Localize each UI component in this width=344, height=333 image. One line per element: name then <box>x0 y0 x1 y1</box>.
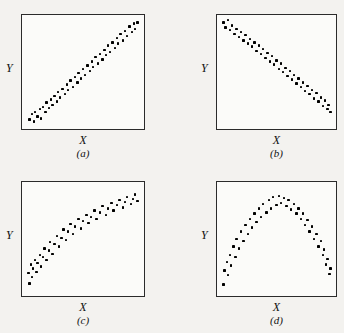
scatter-dot <box>111 41 113 43</box>
scatter-dot <box>253 41 255 43</box>
scatter-dot <box>99 53 101 55</box>
scatter-dot <box>273 63 275 65</box>
scatter-dot <box>275 204 277 206</box>
scatter-dot <box>60 237 62 239</box>
panel-a-y-axis-label: Y <box>6 62 13 74</box>
scatter-dot <box>84 74 86 76</box>
scatter-dot <box>74 76 76 78</box>
scatterplot-figure: Y X (a) Y X (b) Y X (c) Y X (d) <box>0 0 344 333</box>
scatter-dot <box>293 74 295 76</box>
panel-d-plot-box <box>216 181 337 297</box>
scatter-dot <box>258 44 260 46</box>
scatter-dot <box>36 262 38 264</box>
scatter-dot <box>124 201 126 203</box>
scatter-dot <box>302 212 304 214</box>
scatter-dot <box>130 203 132 205</box>
panel-b-x-axis-label: X <box>216 134 337 146</box>
scatter-dot <box>112 209 114 211</box>
scatter-dot <box>233 33 235 35</box>
panel-b-caption: (b) <box>216 148 337 159</box>
panel-b-y-axis-label: Y <box>201 62 208 74</box>
scatter-dot <box>265 211 267 213</box>
scatter-dot <box>45 259 47 261</box>
scatter-dot <box>31 276 33 278</box>
scatter-dot <box>85 214 87 216</box>
scatter-dot <box>253 212 255 214</box>
scatter-dot <box>134 193 136 195</box>
scatter-dot <box>315 233 317 235</box>
panel-b-plot-box <box>216 14 337 130</box>
panel-a: Y X (a) <box>0 0 172 166</box>
scatter-dot <box>240 230 242 232</box>
scatter-dot <box>136 21 138 23</box>
panel-a-plot-box <box>21 14 145 130</box>
panel-c-plot-box <box>21 181 145 297</box>
scatter-dot <box>31 113 33 115</box>
scatter-dot <box>329 111 331 113</box>
scatter-dot <box>270 207 272 209</box>
scatter-dot <box>300 86 302 88</box>
scatter-dot <box>290 208 292 210</box>
scatter-dot <box>132 198 134 200</box>
scatter-dot <box>122 39 124 41</box>
scatter-dot <box>302 81 304 83</box>
scatter-dot <box>82 220 84 222</box>
scatter-dot <box>117 42 119 44</box>
scatter-dot <box>322 105 324 107</box>
scatter-dot <box>262 48 264 50</box>
scatter-dot <box>93 209 95 211</box>
scatter-dot <box>320 96 322 98</box>
scatter-dot <box>280 202 282 204</box>
scatter-dot <box>260 53 262 55</box>
scatter-dot <box>95 218 97 220</box>
scatter-dot <box>255 50 257 52</box>
scatter-dot <box>297 77 299 79</box>
scatter-dot <box>315 92 317 94</box>
scatter-dot <box>99 211 101 213</box>
scatter-dot <box>287 199 289 201</box>
scatter-dot <box>56 100 58 102</box>
scatter-dot <box>101 205 103 207</box>
scatter-dot <box>77 72 79 74</box>
scatter-dot <box>116 204 118 206</box>
scatter-dot <box>282 71 284 73</box>
scatter-dot <box>74 225 76 227</box>
scatter-dot <box>264 57 266 59</box>
scatter-dot <box>82 68 84 70</box>
scatter-dot <box>105 54 107 56</box>
panel-a-x-axis-label: X <box>21 134 145 146</box>
scatter-dot <box>232 245 234 247</box>
scatter-dot <box>278 68 280 70</box>
panel-b-scatter-points <box>217 15 336 129</box>
scatter-dot <box>67 230 69 232</box>
scatter-dot <box>53 95 55 97</box>
scatter-dot <box>53 243 55 245</box>
scatter-dot <box>51 253 53 255</box>
scatter-dot <box>244 224 246 226</box>
scatter-dot <box>227 274 229 276</box>
scatter-dot <box>86 64 88 66</box>
scatter-dot <box>133 22 135 24</box>
scatter-dot <box>105 214 107 216</box>
scatter-dot <box>289 70 291 72</box>
scatter-dot <box>48 249 50 251</box>
scatter-dot <box>40 265 42 267</box>
scatter-dot <box>275 59 277 61</box>
scatter-dot <box>89 70 91 72</box>
panel-d-caption: (d) <box>216 315 337 326</box>
panel-a-caption: (a) <box>21 148 145 159</box>
scatter-dot <box>313 97 315 99</box>
scatter-dot <box>65 239 67 241</box>
scatter-dot <box>311 225 313 227</box>
scatter-dot <box>251 45 253 47</box>
scatter-dot <box>103 49 105 51</box>
scatter-dot <box>258 207 260 209</box>
scatter-dot <box>234 256 236 258</box>
scatter-dot <box>72 86 74 88</box>
scatter-dot <box>297 207 299 209</box>
scatter-dot <box>293 203 295 205</box>
scatter-dot <box>77 218 79 220</box>
scatter-dot <box>28 282 30 284</box>
scatter-dot <box>110 202 112 204</box>
panel-c: Y X (c) <box>0 166 172 333</box>
